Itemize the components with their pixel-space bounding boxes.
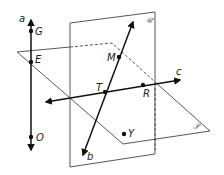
label-point-m: M bbox=[107, 52, 116, 63]
label-line-a: a bbox=[19, 13, 25, 24]
point-r bbox=[141, 83, 145, 87]
point-e bbox=[29, 60, 33, 64]
label-point-o: O bbox=[36, 132, 44, 143]
point-y bbox=[122, 132, 126, 136]
label-point-t: T bbox=[96, 82, 103, 93]
label-point-y: Y bbox=[128, 128, 135, 139]
point-t bbox=[103, 90, 107, 94]
point-o bbox=[29, 135, 33, 139]
point-m bbox=[117, 55, 121, 59]
point-g bbox=[29, 29, 33, 33]
label-point-g: G bbox=[35, 26, 43, 37]
label-line-b: b bbox=[87, 151, 93, 162]
label-point-r: R bbox=[143, 88, 150, 99]
geometry-diagram: a G E O M T R Y b c 𝒰 𝒫 bbox=[0, 0, 224, 175]
label-line-c: c bbox=[176, 66, 182, 77]
label-point-e: E bbox=[35, 54, 42, 65]
